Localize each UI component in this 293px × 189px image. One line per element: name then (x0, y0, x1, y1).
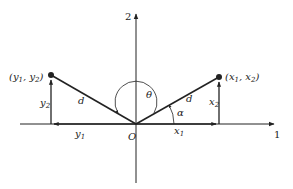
right-point-dot (216, 74, 222, 80)
alpha-label: α (177, 107, 184, 118)
theta-label: θ (146, 89, 152, 100)
origin-label: O (128, 131, 136, 142)
axis-label-1: 1 (274, 129, 280, 140)
right-d-label: d (186, 93, 192, 104)
axis-label-2: 2 (125, 11, 131, 22)
left-point-label: (y1, y2) (9, 71, 44, 84)
left-d-label: d (78, 95, 84, 106)
vector-angle-diagram: 1 2 O θ α d d y2 y1 x2 x1 (y1, y2) (x1, … (0, 0, 293, 189)
right-point-label: (x1, x2) (225, 71, 259, 84)
y1-label: y1 (74, 128, 85, 141)
x2-label: x2 (209, 96, 220, 109)
left-vector-d (51, 75, 136, 124)
x1-label: x1 (174, 125, 184, 138)
y2-label: y2 (39, 97, 51, 110)
left-point-dot (48, 72, 54, 78)
alpha-arc (169, 105, 174, 124)
